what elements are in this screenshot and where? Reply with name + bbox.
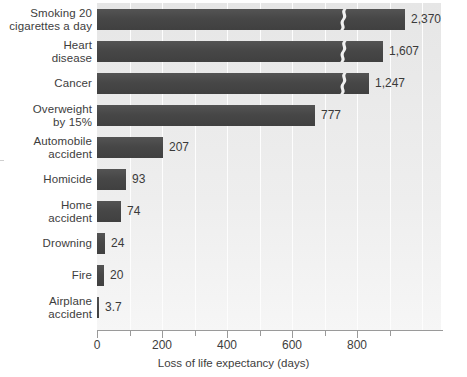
category-label-0: Smoking 20 cigarettes a day bbox=[0, 7, 92, 32]
bar-chart: Smoking 20 cigarettes a day Heart diseas… bbox=[0, 0, 467, 377]
bar-value-0: 2,370 bbox=[411, 9, 441, 30]
category-label-line: by 15% bbox=[0, 116, 92, 129]
bar-9 bbox=[97, 297, 99, 318]
category-label-9: Airplane accident bbox=[0, 295, 92, 320]
bar-value-6: 74 bbox=[127, 201, 140, 222]
category-label-line: Heart bbox=[0, 39, 92, 52]
category-label-line: accident bbox=[0, 212, 92, 225]
category-label-line: Homicide bbox=[0, 173, 92, 186]
category-label-3: Overweight by 15% bbox=[0, 103, 92, 128]
category-label-line: Smoking 20 bbox=[0, 7, 92, 20]
bar-value-4: 207 bbox=[169, 137, 189, 158]
category-label-line: cigarettes a day bbox=[0, 20, 92, 33]
x-tick-label-600: 600 bbox=[282, 338, 302, 352]
x-tick-100 bbox=[130, 331, 131, 336]
category-label-7: Drowning bbox=[0, 237, 92, 250]
x-tick-500 bbox=[260, 331, 261, 336]
x-tick-800 bbox=[357, 331, 358, 338]
x-tick-300 bbox=[195, 331, 196, 336]
bar-3 bbox=[97, 105, 315, 126]
bar-value-3: 777 bbox=[321, 105, 341, 126]
category-label-line: Automobile bbox=[0, 135, 92, 148]
x-tick-900 bbox=[390, 331, 391, 336]
x-tick-600 bbox=[292, 331, 293, 338]
category-label-line: Cancer bbox=[0, 77, 92, 90]
x-tick-400 bbox=[227, 331, 228, 338]
bar-value-7: 24 bbox=[111, 233, 124, 254]
bar-value-5: 93 bbox=[132, 169, 145, 190]
category-label-line: Drowning bbox=[0, 237, 92, 250]
bar-value-2: 1,247 bbox=[375, 73, 405, 94]
bar-4 bbox=[97, 137, 163, 158]
bar-6 bbox=[97, 201, 121, 222]
category-label-line: disease bbox=[0, 52, 92, 65]
category-label-1: Heart disease bbox=[0, 39, 92, 64]
category-label-4: Automobile accident bbox=[0, 135, 92, 160]
category-label-line: Airplane bbox=[0, 295, 92, 308]
category-label-5: Homicide bbox=[0, 173, 92, 186]
category-labels: Smoking 20 cigarettes a day Heart diseas… bbox=[0, 0, 92, 332]
category-label-line: Home bbox=[0, 199, 92, 212]
bar-value-8: 20 bbox=[110, 265, 123, 286]
x-tick-200 bbox=[162, 331, 163, 338]
x-tick-0 bbox=[97, 331, 98, 338]
x-tick-label-0: 0 bbox=[94, 338, 101, 352]
category-label-line: accident bbox=[0, 148, 92, 161]
x-tick-label-200: 200 bbox=[152, 338, 172, 352]
bar-value-9: 3.7 bbox=[105, 297, 122, 318]
x-tick-700 bbox=[325, 331, 326, 336]
x-axis-title: Loss of life expectancy (days) bbox=[0, 357, 467, 369]
x-axis-line bbox=[97, 330, 443, 331]
bar-1 bbox=[97, 41, 383, 62]
category-label-line: Fire bbox=[0, 269, 92, 282]
bar-5 bbox=[97, 169, 126, 190]
category-label-2: Cancer bbox=[0, 77, 92, 90]
category-label-line: accident bbox=[0, 308, 92, 321]
bar-0 bbox=[97, 9, 405, 30]
x-tick-label-800: 800 bbox=[347, 338, 367, 352]
bars-layer: 2,370 1,607 1,247 777 207 93 74 24 20 3.… bbox=[97, 3, 441, 330]
category-label-8: Fire bbox=[0, 269, 92, 282]
bar-2 bbox=[97, 73, 369, 94]
x-tick-label-400: 400 bbox=[217, 338, 237, 352]
bar-7 bbox=[97, 233, 105, 254]
category-label-line: Overweight bbox=[0, 103, 92, 116]
category-label-6: Home accident bbox=[0, 199, 92, 224]
bar-value-1: 1,607 bbox=[389, 41, 419, 62]
bar-8 bbox=[97, 265, 104, 286]
